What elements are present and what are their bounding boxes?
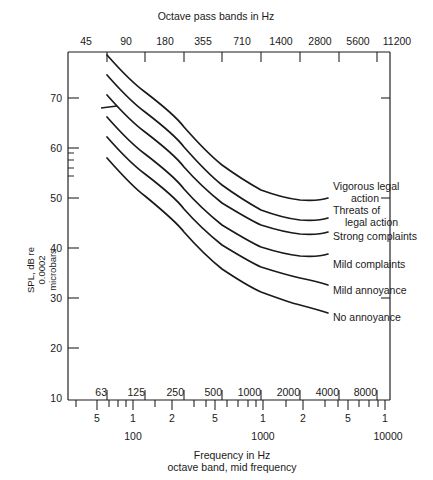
log-scale-ticks: 5 1 2 5 1 2 5 1	[76, 400, 388, 424]
spl-annoyance-chart: Octave pass bands in Hz 45 90 180 355 71…	[0, 0, 433, 480]
octave-band-label: 125	[127, 386, 145, 398]
top-axis-tick-labels: 45 90 180 355 710 1400 2800 5600 11200	[80, 35, 411, 47]
y-tick-label: 20	[50, 342, 62, 354]
curve-label-threats-of-legal-action: Threats oflegal action	[333, 204, 398, 228]
y-tick-label: 60	[50, 142, 62, 154]
log-minor-label: 1	[260, 412, 266, 424]
octave-band-label: 500	[204, 386, 222, 398]
curve-label-mild-annoyance: Mild annoyance	[333, 284, 407, 296]
top-tick-label: 11200	[383, 35, 412, 47]
log-minor-label: 5	[94, 412, 100, 424]
x-axis-title: Frequency in Hz	[194, 449, 270, 461]
curve-label-vigorous-legal-action: Vigorous legalaction	[333, 180, 399, 204]
decade-label: 1000	[251, 430, 275, 442]
y-axis: 10 20 30 40 50 60 70	[50, 92, 79, 404]
top-axis-ticks	[107, 52, 377, 62]
top-axis-title: Octave pass bands in Hz	[158, 10, 275, 22]
octave-band-label: 8000	[354, 386, 378, 398]
top-tick-label: 180	[156, 35, 174, 47]
curve-strong-complaints	[107, 95, 328, 234]
octave-band-label: 63	[95, 386, 107, 398]
log-minor-label: 5	[212, 412, 218, 424]
reference-marker	[101, 106, 117, 108]
log-minor-label: 5	[345, 412, 351, 424]
data-curves	[107, 55, 328, 313]
y-tick-label: 50	[50, 192, 62, 204]
octave-band-label: 1000	[238, 386, 262, 398]
top-tick-label: 1400	[269, 35, 293, 47]
curve-label-strong-complaints: Strong complaints	[333, 230, 417, 242]
y-axis-title: SPL, dB re 0.0002 microbars	[25, 247, 58, 293]
curve-mild-annoyance	[107, 137, 328, 285]
top-tick-label: 710	[233, 35, 251, 47]
y-tick-label: 10	[50, 392, 62, 404]
top-tick-label: 5600	[346, 35, 370, 47]
y-tick-label: 70	[50, 92, 62, 104]
decade-label: 100	[124, 430, 142, 442]
curve-label-no-annoyance: No annoyance	[333, 311, 401, 323]
log-minor-label: 2	[300, 412, 306, 424]
curve-labels: Vigorous legalaction Threats oflegal act…	[333, 180, 417, 323]
top-tick-label: 355	[194, 35, 212, 47]
top-tick-label: 2800	[308, 35, 332, 47]
y-axis-title-line: SPL, dB re	[25, 247, 36, 293]
octave-band-label: 2000	[277, 386, 301, 398]
y-axis-title-line: 0.0002	[36, 255, 47, 284]
top-tick-label: 45	[80, 35, 92, 47]
x-axis-subtitle: octave band, mid frequency	[168, 461, 298, 473]
top-tick-label: 90	[120, 35, 132, 47]
log-minor-label: 2	[169, 412, 175, 424]
decade-labels: 100 1000 10000	[124, 430, 403, 442]
octave-band-label: 250	[166, 386, 184, 398]
octave-band-labels: 63 125 250 500 1000 2000 4000 8000	[95, 386, 377, 400]
curve-label-mild-complaints: Mild complaints	[333, 258, 405, 270]
log-minor-label: 1	[130, 412, 136, 424]
log-minor-label: 1	[382, 412, 388, 424]
y-tick-label: 30	[50, 292, 62, 304]
octave-band-label: 4000	[316, 386, 340, 398]
decade-label: 10000	[373, 430, 402, 442]
chart-svg: Octave pass bands in Hz 45 90 180 355 71…	[0, 0, 433, 480]
y-axis-title-line: microbars	[47, 249, 58, 291]
curve-mild-complaints	[107, 117, 328, 256]
